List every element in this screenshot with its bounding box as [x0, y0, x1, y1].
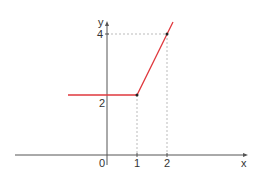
y-axis-label: y: [98, 16, 104, 28]
x-tick-label-2: 2: [164, 157, 170, 169]
function-graph: y 4 2 0 1 2 x: [0, 0, 262, 175]
point-1-2: [136, 94, 139, 97]
y-axis-arrow-icon: [105, 21, 109, 26]
point-2-4: [166, 33, 169, 36]
x-tick-label-1: 1: [134, 157, 140, 169]
y-tick-label-4: 4: [97, 28, 103, 40]
function-line: [68, 22, 173, 95]
origin-label: 0: [99, 157, 105, 169]
y-tick-label-2: 2: [99, 97, 105, 109]
x-axis-label: x: [241, 157, 247, 169]
